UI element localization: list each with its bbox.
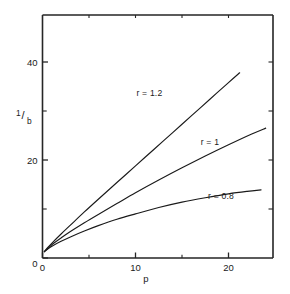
chart-figure: 0102002040 r = 1.2r = 1r = 0.8 p 1 / b [0, 0, 290, 294]
y-axis-label-numerator: 1 [16, 108, 21, 118]
y-tick-label: 20 [27, 155, 38, 166]
curve-label-r-0-8: r = 0.8 [208, 191, 234, 201]
x-tick-label: 20 [223, 262, 234, 273]
curve-label-r-1-2: r = 1.2 [136, 88, 162, 98]
y-tick-label: 40 [27, 57, 38, 68]
chart-background [0, 0, 290, 294]
x-tick-label: 0 [40, 262, 45, 273]
y-axis-label-denominator: b [27, 116, 32, 126]
x-axis-label: p [143, 273, 148, 284]
line-chart: 0102002040 r = 1.2r = 1r = 0.8 p 1 / b [0, 0, 290, 294]
x-tick-label: 10 [130, 262, 141, 273]
y-tick-label: 0 [32, 258, 37, 269]
x-axis-label-text: p [143, 273, 148, 284]
curve-label-r-1: r = 1 [201, 137, 219, 147]
